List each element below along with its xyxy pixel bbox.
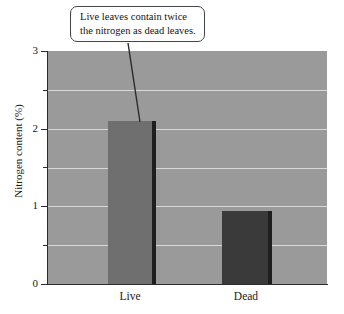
y-tick-label-3: 3 [18,45,38,56]
y-tick-1_5 [43,167,47,168]
annotation-callout: Live leaves contain twice the nitrogen a… [70,6,205,42]
bar-dead-right-edge [268,211,272,284]
y-axis-line [47,51,48,285]
x-tick-label-live: Live [90,290,170,302]
annotation-line-2: the nitrogen as dead leaves. [80,24,197,38]
plot-area [48,51,327,284]
gridline-2_5 [48,90,327,91]
y-tick-2_5 [43,90,47,91]
bar-live-right-edge [152,121,156,284]
y-tick-1 [41,206,47,207]
x-tick-label-dead: Dead [206,290,286,302]
bar-live [108,121,152,284]
gridline-1_5 [48,168,327,169]
y-tick-0_5 [43,245,47,246]
bar-live-face [108,121,152,284]
bar-dead-face [222,211,268,284]
x-axis-line [47,284,328,285]
y-tick-2 [41,129,47,130]
y-tick-3 [41,51,47,52]
gridline-0_5 [48,245,327,246]
gridline-1_0 [48,206,327,207]
bar-chart-figure: 3 2 1 0 Nitrogen content (%) Live Dead L… [0,0,344,314]
gridline-2_0 [48,129,327,130]
y-tick-0 [41,284,47,285]
y-tick-label-0: 0 [18,278,38,289]
bar-dead [222,211,268,284]
y-axis-title: Nitrogen content (%) [12,71,24,231]
annotation-line-1: Live leaves contain twice [80,10,197,24]
